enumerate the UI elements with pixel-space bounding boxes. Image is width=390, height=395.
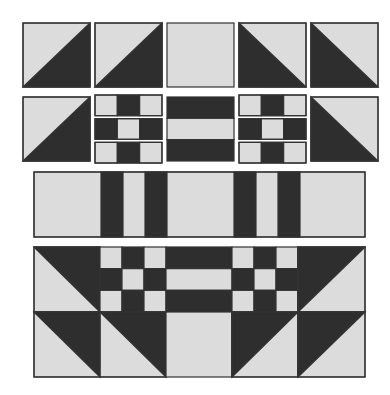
hst-block-5	[23, 97, 90, 161]
row-3-sashing	[34, 172, 365, 237]
assembled-bottom-hst-4	[298, 312, 365, 377]
assembled-top-left-hst	[34, 247, 100, 312]
assembled-top-right-hst	[298, 247, 365, 312]
hst-block-2	[95, 23, 162, 87]
plain-light-square	[167, 23, 234, 87]
row-1-units	[23, 23, 378, 87]
assembled-nine-patch-right	[232, 247, 298, 312]
hst-block-6	[311, 97, 378, 161]
hst-block-4	[311, 23, 378, 87]
nine-patch-strips-left	[95, 95, 162, 163]
assembled-rail-fence	[166, 247, 232, 312]
row-4-assembled	[34, 247, 365, 377]
nine-patch-strips-right	[239, 95, 306, 163]
sashing-strip	[34, 172, 365, 237]
quilt-diagram	[0, 0, 390, 395]
assembled-bottom-hst-3	[232, 312, 298, 377]
row-2-units	[23, 95, 378, 163]
assembled-bottom-plain	[166, 312, 232, 377]
hst-block-3	[239, 23, 306, 87]
assembled-bottom-hst-2	[100, 312, 166, 377]
rail-fence-block	[167, 97, 234, 161]
quilt-diagram-svg	[0, 0, 390, 395]
assembled-bottom-hst-1	[34, 312, 100, 377]
hst-block-1	[23, 23, 90, 87]
assembled-nine-patch-left	[100, 247, 166, 312]
